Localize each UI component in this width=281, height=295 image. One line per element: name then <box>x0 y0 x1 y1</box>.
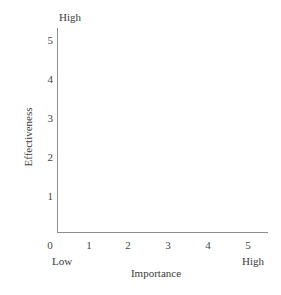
y-axis-tick-3: 3 <box>48 113 54 124</box>
y-axis-line <box>57 28 58 233</box>
y-axis-high-label: High <box>59 12 81 23</box>
x-axis-line <box>57 232 268 233</box>
x-axis-tick-1: 1 <box>86 240 92 251</box>
y-axis-tick-4: 4 <box>48 74 54 85</box>
x-axis-title: Importance <box>131 268 181 279</box>
x-axis-tick-2: 2 <box>125 240 131 251</box>
x-axis-tick-0: 0 <box>47 240 53 251</box>
y-axis-title: Effectiveness <box>23 107 34 166</box>
chart-container: High 5 4 3 2 1 0 1 2 3 4 5 Low High Impo… <box>0 0 281 295</box>
y-axis-tick-5: 5 <box>48 35 54 46</box>
x-axis-high-label: High <box>242 256 264 267</box>
y-axis-tick-1: 1 <box>48 191 54 202</box>
x-axis-tick-5: 5 <box>245 240 251 251</box>
x-axis-low-label: Low <box>52 256 72 267</box>
y-axis-tick-2: 2 <box>48 152 54 163</box>
x-axis-tick-3: 3 <box>165 240 171 251</box>
x-axis-tick-4: 4 <box>205 240 211 251</box>
